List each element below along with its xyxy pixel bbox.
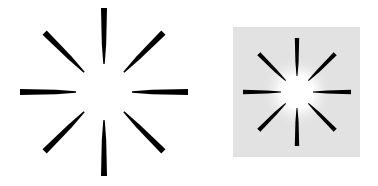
illusory-star-figure-glow: [233, 27, 360, 157]
glowing-spoke-star-icon: [233, 27, 360, 157]
illusory-star-figure-plain: [0, 0, 210, 186]
spoke-star-icon: [0, 0, 210, 186]
